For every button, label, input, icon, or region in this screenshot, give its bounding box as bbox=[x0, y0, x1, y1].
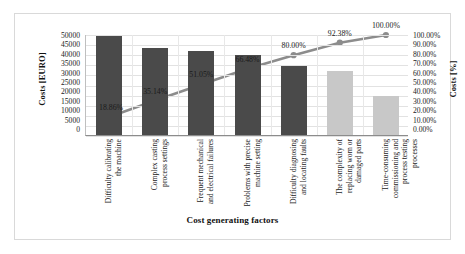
pareto-point-label-0: 18.86% bbox=[99, 103, 123, 112]
pareto-point-label-1: 35.14% bbox=[143, 87, 167, 96]
chart-frame: Costs [EURO] Costs [%] 50000450004000035… bbox=[14, 13, 451, 240]
x-category-label-6-line-3: processes bbox=[410, 139, 420, 225]
gridline-vertical-3 bbox=[224, 35, 225, 135]
x-category-label-5-line-2: damaged parts bbox=[354, 139, 364, 225]
bar-2[interactable] bbox=[188, 51, 214, 135]
x-category-label-2-line-1: and electrical failures bbox=[206, 139, 216, 225]
x-category-label-5-line-1: replacing worn or bbox=[344, 139, 354, 225]
gridline-vertical-5 bbox=[317, 35, 318, 135]
bar-6[interactable] bbox=[373, 96, 399, 135]
x-category-label-1: Complex castingprocess settings bbox=[150, 139, 169, 225]
x-category-label-6-line-0: Time-consuming bbox=[381, 139, 391, 225]
gridline-vertical-4 bbox=[271, 35, 272, 135]
pareto-point-label-5: 92.38% bbox=[328, 29, 352, 38]
x-axis-title: Cost generating factors bbox=[0, 215, 465, 225]
x-category-label-3: Problems with precisemachine setting bbox=[243, 139, 262, 225]
y-axis-right-ticks: 100.00%90.00%80.00%70.00%60.00%50.00%40.… bbox=[413, 32, 457, 135]
pareto-point-label-4: 80.00% bbox=[282, 41, 306, 50]
x-category-label-5: The complexity ofreplacing worn ordamage… bbox=[335, 139, 364, 225]
bar-5[interactable] bbox=[327, 71, 353, 135]
x-category-label-0: Difficulty calibratingthe machine bbox=[104, 139, 123, 225]
x-category-label-1-line-0: Complex casting bbox=[150, 139, 160, 225]
x-category-label-3-line-0: Problems with precise bbox=[243, 139, 253, 225]
x-category-label-4-line-1: and locating faults bbox=[298, 139, 308, 225]
plot-area: 18.86%35.14%51.05%66.48%80.00%92.38%100.… bbox=[85, 35, 408, 136]
bar-3[interactable] bbox=[235, 55, 261, 135]
x-category-label-6: Time-consumingcommissioning andprocess t… bbox=[381, 139, 419, 225]
x-category-label-0-line-1: the machine bbox=[114, 139, 124, 225]
gridline-vertical-6 bbox=[363, 35, 364, 135]
x-category-label-4-line-0: Difficulty diagnosing bbox=[289, 139, 299, 225]
x-category-label-0-line-0: Difficulty calibrating bbox=[104, 139, 114, 225]
gridline-vertical-2 bbox=[178, 35, 179, 135]
bar-4[interactable] bbox=[281, 66, 307, 135]
gridline-horizontal-1 bbox=[86, 45, 408, 46]
y-right-tick-10: 0.00% bbox=[413, 126, 457, 135]
x-category-label-2: Frequent mechanicaland electrical failur… bbox=[196, 139, 215, 225]
y-left-tick-9: 5000 bbox=[44, 117, 80, 126]
x-category-label-4: Difficulty diagnosingand locating faults bbox=[289, 139, 308, 225]
gridline-vertical-1 bbox=[132, 35, 133, 135]
x-category-label-1-line-1: process settings bbox=[160, 139, 170, 225]
pareto-point-label-2: 51.05% bbox=[189, 70, 213, 79]
x-category-label-3-line-1: machine setting bbox=[252, 139, 262, 225]
x-category-label-6-line-1: commissioning and bbox=[391, 139, 401, 225]
pareto-point-label-3: 66.48% bbox=[235, 55, 259, 64]
bar-0[interactable] bbox=[96, 36, 122, 135]
x-axis-category-labels: Difficulty calibratingthe machineComplex… bbox=[85, 137, 408, 227]
gridline-horizontal-0 bbox=[86, 35, 408, 36]
y-axis-left-ticks: 5000045000400003500030000250002000015000… bbox=[44, 32, 80, 135]
x-category-label-6-line-2: process testing bbox=[400, 139, 410, 225]
x-category-label-5-line-0: The complexity of bbox=[335, 139, 345, 225]
x-category-label-2-line-0: Frequent mechanical bbox=[196, 139, 206, 225]
pareto-point-label-6: 100.00% bbox=[372, 21, 400, 30]
y-left-tick-10: 0 bbox=[44, 126, 80, 135]
